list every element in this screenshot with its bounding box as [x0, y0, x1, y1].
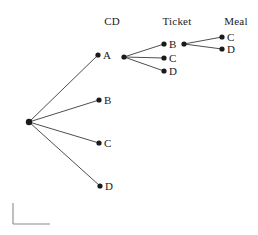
node-label-cd-B: B — [104, 94, 111, 106]
column-header-ticket: Ticket — [163, 15, 192, 27]
tree-diagram-svg — [0, 0, 258, 235]
node-label-tk-D: D — [169, 65, 177, 77]
tree-node-tk-D[interactable] — [161, 68, 166, 73]
column-header-meal: Meal — [224, 15, 247, 27]
node-label-cd-A: A — [103, 49, 111, 61]
tree-edge — [124, 44, 164, 57]
axis-mark-layer — [13, 203, 50, 224]
node-label-ml-C: C — [227, 31, 234, 43]
tree-node-tk-B[interactable] — [161, 41, 166, 46]
node-label-ml-D: D — [227, 43, 235, 55]
node-label-tk-B: B — [169, 38, 176, 50]
node-label-tk-C: C — [169, 52, 176, 64]
tree-edge — [29, 122, 99, 143]
tree-node-tk-B-hub[interactable] — [181, 41, 186, 46]
tree-diagram-canvas: CDTicketMeal ABCDBCDCD — [0, 0, 258, 235]
tree-node-ml-C[interactable] — [219, 34, 224, 39]
tree-edge — [184, 37, 222, 44]
tree-edge — [29, 55, 98, 122]
tree-node-cd-B[interactable] — [96, 97, 101, 102]
tree-node-tk-C[interactable] — [161, 55, 166, 60]
node-label-cd-D: D — [105, 180, 113, 192]
tree-node-root[interactable] — [26, 119, 32, 125]
tree-node-cd-D[interactable] — [97, 183, 102, 188]
tree-edge — [184, 44, 222, 49]
tree-edge — [29, 122, 100, 186]
tree-node-ml-D[interactable] — [219, 46, 224, 51]
tree-edge — [124, 57, 164, 58]
node-label-cd-C: C — [104, 137, 111, 149]
tree-edge — [124, 57, 164, 71]
tree-node-cd-A-hub[interactable] — [121, 54, 126, 59]
column-header-cd: CD — [104, 15, 120, 27]
node-layer — [26, 34, 225, 188]
tree-node-cd-C[interactable] — [96, 140, 101, 145]
tree-node-cd-A[interactable] — [95, 52, 100, 57]
edge-layer — [29, 37, 222, 186]
tree-edge — [29, 100, 99, 122]
